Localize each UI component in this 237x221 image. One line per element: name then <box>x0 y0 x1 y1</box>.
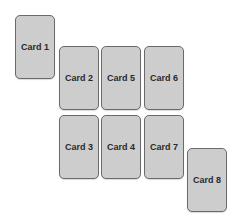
card-label: Card 1 <box>21 42 49 52</box>
card-1[interactable]: Card 1 <box>15 15 55 79</box>
card-3[interactable]: Card 3 <box>59 115 99 179</box>
card-8[interactable]: Card 8 <box>187 148 227 212</box>
card-label: Card 3 <box>65 142 93 152</box>
card-7[interactable]: Card 7 <box>144 115 184 179</box>
card-5[interactable]: Card 5 <box>101 46 141 110</box>
card-layout-canvas: Card 1 Card 2 Card 5 Card 6 Card 3 Card … <box>0 0 237 221</box>
card-label: Card 6 <box>150 73 178 83</box>
card-label: Card 2 <box>65 73 93 83</box>
card-label: Card 4 <box>107 142 135 152</box>
card-4[interactable]: Card 4 <box>101 115 141 179</box>
card-label: Card 7 <box>150 142 178 152</box>
card-2[interactable]: Card 2 <box>59 46 99 110</box>
card-6[interactable]: Card 6 <box>144 46 184 110</box>
card-label: Card 5 <box>107 73 135 83</box>
card-label: Card 8 <box>193 175 221 185</box>
